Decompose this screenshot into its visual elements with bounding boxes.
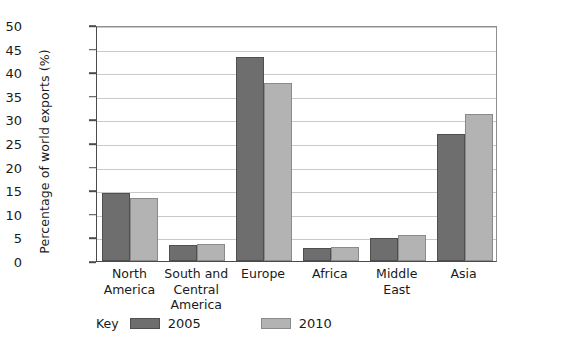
y-tick-mark (89, 167, 96, 169)
bar-2005-europe (236, 57, 264, 261)
y-tick-mark (89, 72, 96, 74)
y-tick-mark (89, 25, 96, 27)
bar-2005-south-and-central-america (169, 245, 197, 261)
y-tick-mark (89, 214, 96, 216)
y-tick-mark (89, 238, 96, 240)
bar-2010-africa (331, 247, 359, 261)
y-tick-label: 25 (0, 137, 22, 152)
bar-2005-north-america (102, 193, 130, 261)
plot-area (96, 26, 497, 262)
bar-2005-middle-east (370, 238, 398, 261)
bar-chart: Percentage of world exports (%) 50454035… (0, 0, 571, 364)
y-tick-label: 50 (0, 19, 22, 34)
y-tick-label: 40 (0, 66, 22, 81)
legend-swatch-2005 (130, 318, 160, 329)
x-axis-label: South andCentralAmerica (163, 266, 230, 313)
bar-2005-asia (437, 134, 465, 261)
bar-2010-middle-east (398, 235, 426, 261)
bar-2005-africa (303, 248, 331, 261)
y-tick-mark (89, 96, 96, 98)
x-axis-label: MiddleEast (363, 266, 430, 297)
y-tick-label: 10 (0, 207, 22, 222)
y-tick-mark (89, 120, 96, 122)
legend-item-2005: 2005 (130, 316, 201, 331)
y-tick-label: 5 (0, 231, 22, 246)
y-tick-label: 35 (0, 89, 22, 104)
y-tick-mark (89, 143, 96, 145)
legend-label-2010: 2010 (299, 316, 332, 331)
y-tick-label: 0 (0, 255, 22, 270)
x-axis-label: Europe (230, 266, 297, 282)
bars-layer (97, 27, 496, 261)
y-tick-label: 30 (0, 113, 22, 128)
legend-title: Key (96, 316, 119, 331)
y-tick-label: 20 (0, 160, 22, 175)
y-tick-mark (89, 261, 96, 263)
legend-item-2010: 2010 (261, 316, 332, 331)
y-tick-label: 45 (0, 42, 22, 57)
bar-2010-europe (264, 83, 292, 261)
x-axis-label: Asia (430, 266, 497, 282)
legend-label-2005: 2005 (168, 316, 201, 331)
y-axis-ticks: 50454035302520151050 (0, 0, 96, 364)
x-axis-label: Africa (297, 266, 364, 282)
bar-2010-south-and-central-america (197, 244, 225, 261)
y-tick-mark (89, 190, 96, 192)
x-axis-label: NorthAmerica (96, 266, 163, 297)
y-tick-label: 15 (0, 184, 22, 199)
bar-2010-north-america (130, 198, 158, 261)
legend-swatch-2010 (261, 318, 291, 329)
chart-legend: Key 2005 2010 (96, 310, 497, 336)
y-tick-mark (89, 49, 96, 51)
bar-2010-asia (465, 114, 493, 261)
